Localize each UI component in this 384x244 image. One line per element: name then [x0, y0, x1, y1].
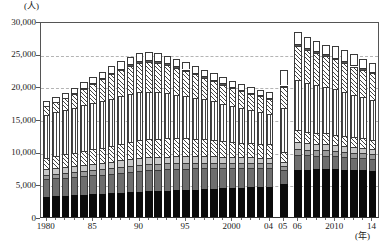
bar[interactable] — [99, 21, 106, 217]
bar[interactable] — [359, 21, 366, 217]
bar-segment — [257, 112, 264, 144]
bar-segment — [52, 97, 59, 102]
bar-segment — [229, 88, 236, 106]
bar-segment — [313, 51, 320, 53]
x-axis-minor-tick — [176, 218, 177, 220]
bar[interactable] — [294, 21, 301, 217]
bar-segment — [80, 171, 87, 176]
bar-segment — [229, 163, 236, 168]
bar[interactable] — [304, 21, 311, 217]
x-axis-minor-tick — [259, 218, 260, 220]
bar[interactable] — [369, 21, 376, 217]
bar-segment — [359, 148, 366, 154]
bar-segment — [247, 157, 254, 163]
bar[interactable] — [62, 21, 69, 217]
bar[interactable] — [238, 21, 245, 217]
bar-segment — [210, 156, 217, 162]
bar[interactable] — [192, 21, 199, 217]
bar-segment — [359, 138, 366, 147]
bar[interactable] — [313, 21, 320, 217]
bar-segment — [52, 196, 59, 217]
bar-segment — [182, 62, 189, 69]
bar[interactable] — [127, 21, 134, 217]
bar-segment — [154, 61, 161, 63]
bar[interactable] — [136, 21, 143, 217]
x-axis-minor-tick — [204, 218, 205, 220]
bar[interactable] — [341, 21, 348, 217]
bar-segment — [117, 70, 124, 96]
bar[interactable] — [280, 21, 287, 217]
bar[interactable] — [173, 21, 180, 217]
bar-segment — [369, 159, 376, 171]
bar-segment — [89, 103, 96, 149]
bar[interactable] — [332, 21, 339, 217]
bar[interactable] — [201, 21, 208, 217]
bar-segment — [238, 84, 245, 90]
bar-segment — [322, 156, 329, 169]
bar[interactable] — [108, 21, 115, 217]
bar-segment — [99, 72, 106, 79]
bar[interactable] — [117, 21, 124, 217]
bar-segment — [117, 144, 124, 161]
bar-segment — [322, 54, 329, 56]
bar-segment — [280, 184, 287, 217]
bar[interactable] — [219, 21, 226, 217]
y-axis-tick-label: 30,000 — [0, 18, 36, 27]
bar-segment — [99, 163, 106, 169]
bar-segment — [43, 115, 50, 158]
bar-segment — [332, 156, 339, 169]
bar[interactable] — [145, 21, 152, 217]
bar[interactable] — [80, 21, 87, 217]
bar-segment — [117, 167, 124, 173]
bar-segment — [294, 155, 301, 170]
bar[interactable] — [52, 21, 59, 217]
bar-segment — [229, 106, 236, 142]
bar-segment — [145, 164, 152, 170]
bar[interactable] — [257, 21, 264, 217]
chart-container: (人) (年) 05,00010,00015,00020,00025,00030… — [0, 0, 384, 244]
bar-segment — [89, 77, 96, 83]
bar[interactable] — [164, 21, 171, 217]
bar[interactable] — [266, 21, 273, 217]
x-axis-tick-label: 85 — [72, 222, 112, 231]
bar-segment — [210, 168, 217, 189]
bar-segment — [71, 153, 78, 166]
x-axis-tick-label: 14 — [351, 222, 384, 231]
bar-segment — [238, 108, 245, 143]
bar-segment — [192, 156, 199, 163]
bar[interactable] — [43, 21, 50, 217]
bar[interactable] — [154, 21, 161, 217]
bar[interactable] — [89, 21, 96, 217]
bar-segment — [71, 108, 78, 153]
bar-segment — [192, 190, 199, 217]
bar[interactable] — [210, 21, 217, 217]
bar[interactable] — [247, 21, 254, 217]
bar-segment — [280, 152, 287, 162]
bar[interactable] — [182, 21, 189, 217]
bar-segment — [229, 157, 236, 163]
bar-segment — [257, 187, 264, 217]
bar[interactable] — [229, 21, 236, 217]
bar[interactable] — [350, 21, 357, 217]
bar-segment — [294, 44, 301, 46]
bar-segment — [154, 157, 161, 164]
bar-segment — [210, 81, 217, 101]
bar-segment — [43, 106, 50, 114]
bar[interactable] — [71, 21, 78, 217]
bar-segment — [332, 145, 339, 151]
bar-segment — [192, 66, 199, 73]
bar-segment — [219, 83, 226, 84]
bar-segment — [210, 140, 217, 156]
bar-segment — [322, 45, 329, 54]
bar-segment — [332, 135, 339, 145]
bar-segment — [164, 93, 171, 138]
bar-segment — [136, 61, 143, 63]
bar[interactable] — [322, 21, 329, 217]
bar-segment — [117, 96, 124, 143]
x-axis-minor-tick — [148, 218, 149, 220]
bar-segment — [99, 148, 106, 163]
bar-segment — [238, 163, 245, 168]
bar-segment — [108, 146, 115, 162]
bar-segment — [294, 32, 301, 44]
bar-segment — [201, 76, 208, 78]
